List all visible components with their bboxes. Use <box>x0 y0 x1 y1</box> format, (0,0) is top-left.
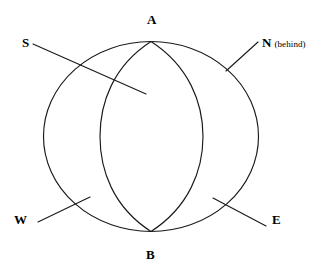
east-leader-line <box>213 198 266 226</box>
vertex-label-b: B <box>146 248 155 261</box>
compass-label-north: N(behind) <box>262 36 306 49</box>
vertex-label-a: A <box>147 13 156 26</box>
compass-label-north-qualifier: (behind) <box>274 39 305 49</box>
south-leader-line <box>33 44 146 94</box>
diagram-canvas: A B S N(behind) W E <box>0 0 330 280</box>
compass-label-north-letter: N <box>262 35 271 50</box>
north-leader-line <box>226 42 258 71</box>
compass-label-south: S <box>22 36 29 49</box>
compass-label-west: W <box>14 213 27 226</box>
meridian-right-arc <box>151 42 203 232</box>
compass-label-east: E <box>272 213 281 226</box>
meridian-left-arc <box>100 42 151 232</box>
